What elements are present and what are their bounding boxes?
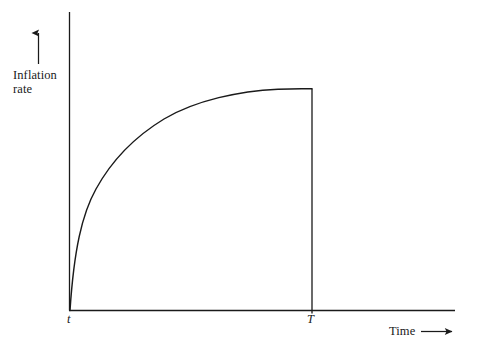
x-tick-label-end: T: [307, 312, 314, 326]
y-axis-label-line1: Inflation: [13, 68, 57, 82]
y-axis-label-line2: rate: [13, 82, 32, 96]
inflation-rate-curve: [70, 89, 312, 311]
y-axis-label: Inflationrate: [13, 68, 57, 96]
x-tick-label-start: t: [67, 312, 70, 326]
chart-canvas: [0, 0, 485, 351]
x-axis-label: Time: [389, 324, 415, 338]
inflation-rate-figure: Inflationrate Time t T: [0, 0, 485, 351]
